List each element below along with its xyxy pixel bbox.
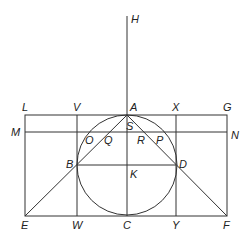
label-X: X [171, 101, 180, 113]
label-K: K [130, 168, 138, 180]
label-M: M [11, 126, 21, 138]
label-B: B [66, 158, 73, 170]
label-F: F [223, 219, 231, 231]
label-V: V [73, 101, 82, 113]
label-O: O [85, 134, 94, 146]
label-G: G [223, 101, 232, 113]
label-R: R [137, 134, 145, 146]
label-A: A [129, 101, 137, 113]
label-N: N [231, 129, 239, 141]
label-S: S [126, 120, 134, 132]
label-E: E [21, 219, 29, 231]
label-L: L [22, 101, 28, 113]
label-H: H [131, 13, 139, 25]
label-W: W [72, 219, 84, 231]
geometry-diagram: H L V A X G M N S O Q R P B D K E W C Y … [0, 0, 245, 233]
label-Y: Y [172, 219, 180, 231]
label-Q: Q [104, 134, 113, 146]
label-D: D [179, 158, 187, 170]
label-C: C [123, 219, 131, 231]
label-P: P [156, 134, 164, 146]
